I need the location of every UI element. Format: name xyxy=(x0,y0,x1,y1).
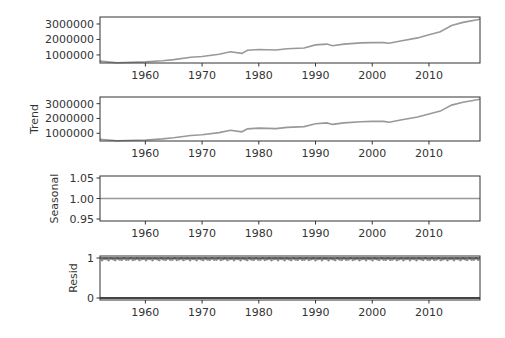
resid-panel: 19601970198019902000201001Resid xyxy=(67,252,480,319)
trend-ylabel: Trend xyxy=(28,104,41,135)
y-tick-label: 1 xyxy=(87,252,94,265)
resid-ylabel: Resid xyxy=(67,263,80,293)
y-tick-label: 2000000 xyxy=(45,33,94,46)
observed-panel: 1960197019801990200020101000000200000030… xyxy=(45,17,480,82)
x-tick-label: 1970 xyxy=(188,69,216,82)
x-tick-label: 2000 xyxy=(358,147,386,160)
x-tick-label: 2010 xyxy=(415,306,443,319)
x-tick-label: 1970 xyxy=(188,227,216,240)
x-tick-label: 1990 xyxy=(302,306,330,319)
trend-line xyxy=(100,99,480,141)
y-tick-label: 3000000 xyxy=(45,18,94,31)
x-tick-label: 1970 xyxy=(188,306,216,319)
x-tick-label: 1990 xyxy=(302,69,330,82)
y-tick-label: 1000000 xyxy=(45,127,94,140)
x-tick-label: 1960 xyxy=(131,227,159,240)
x-tick-label: 1980 xyxy=(245,306,273,319)
x-tick-label: 1960 xyxy=(131,69,159,82)
trend-axes-frame xyxy=(100,97,480,141)
x-tick-label: 2010 xyxy=(415,69,443,82)
seasonal-decomposition-figure: 1960197019801990200020101000000200000030… xyxy=(0,0,505,338)
y-tick-label: 0.95 xyxy=(70,213,95,226)
x-tick-label: 2000 xyxy=(358,69,386,82)
x-tick-label: 1990 xyxy=(302,227,330,240)
y-tick-label: 2000000 xyxy=(45,112,94,125)
x-tick-label: 1980 xyxy=(245,147,273,160)
y-tick-label: 1000000 xyxy=(45,49,94,62)
x-tick-label: 2010 xyxy=(415,147,443,160)
x-tick-label: 1970 xyxy=(188,147,216,160)
x-tick-label: 2000 xyxy=(358,306,386,319)
x-tick-label: 2000 xyxy=(358,227,386,240)
x-tick-label: 1960 xyxy=(131,147,159,160)
y-tick-label: 1.00 xyxy=(70,193,95,206)
observed-axes-frame xyxy=(100,17,480,63)
observed-line xyxy=(100,19,480,62)
y-tick-label: 3000000 xyxy=(45,98,94,111)
x-tick-label: 1980 xyxy=(245,69,273,82)
x-tick-label: 1960 xyxy=(131,306,159,319)
y-tick-label: 1.05 xyxy=(70,172,95,185)
seasonal-ylabel: Seasonal xyxy=(48,174,61,224)
seasonal-panel: 1960197019801990200020100.951.001.05Seas… xyxy=(48,172,480,240)
resid-axes-frame xyxy=(100,256,480,300)
x-tick-label: 2010 xyxy=(415,227,443,240)
x-tick-label: 1980 xyxy=(245,227,273,240)
y-tick-label: 0 xyxy=(87,292,94,305)
x-tick-label: 1990 xyxy=(302,147,330,160)
trend-panel: 1960197019801990200020101000000200000030… xyxy=(28,97,480,160)
